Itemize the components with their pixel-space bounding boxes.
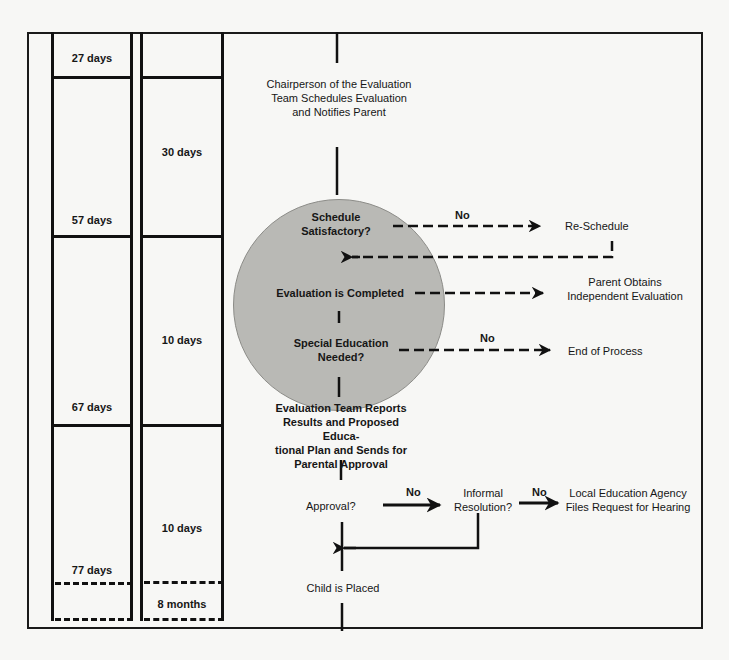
evaluation-report-step: Evaluation Team Reports Results and Prop… [266,401,416,471]
special-ed-no-label: No [480,331,495,345]
decision-text-line: Needed? [276,350,406,364]
step-text-line: Chairperson of the Evaluation [246,77,432,91]
schedule-satisfactory-decision: Schedule Satisfactory? [276,210,396,238]
approval-no-label: No [406,485,421,499]
node-text-line: Local Education Agency [563,486,693,500]
evaluation-completed-step: Evaluation is Completed [270,286,410,300]
node-text-line: Files Request for Hearing [563,500,693,514]
step-text-line: Team Schedules Evaluation [246,91,432,105]
end-of-process-node: End of Process [568,344,643,358]
child-placed-step: Child is Placed [300,581,386,595]
hearing-request-node: Local Education Agency Files Request for… [563,486,693,514]
schedule-evaluation-step: Chairperson of the Evaluation Team Sched… [246,77,432,119]
special-education-decision: Special Education Needed? [276,336,406,364]
decision-text-line: Special Education [276,336,406,350]
step-text-line: Results and Proposed Educa- [266,415,416,443]
reschedule-node: Re-Schedule [565,219,629,233]
step-text-line: Evaluation Team Reports [266,401,416,415]
independent-evaluation-node: Parent Obtains Independent Evaluation [560,275,690,303]
step-text-line: Parental Approval [266,457,416,471]
step-text-line: tional Plan and Sends for [266,443,416,457]
node-text-line: Parent Obtains [560,275,690,289]
decision-text-line: Informal [448,486,518,500]
decision-text-line: Schedule [276,210,396,224]
schedule-no-label: No [455,208,470,222]
decision-text-line: Satisfactory? [276,224,396,238]
informal-no-label: No [532,485,547,499]
informal-resolution-decision: Informal Resolution? [448,486,518,514]
approval-decision: Approval? [306,499,356,513]
step-text-line: and Notifies Parent [246,105,432,119]
decision-text-line: Resolution? [448,500,518,514]
node-text-line: Independent Evaluation [560,289,690,303]
